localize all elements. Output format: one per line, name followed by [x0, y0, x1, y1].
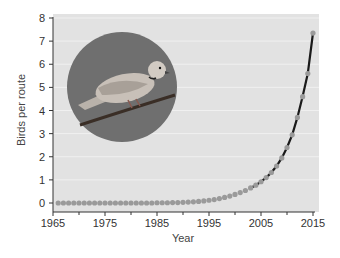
- data-point: [134, 200, 139, 205]
- x-tick-label: 1995: [197, 217, 221, 229]
- data-point: [149, 200, 154, 205]
- data-point: [274, 163, 279, 168]
- y-tick-label: 5: [39, 81, 45, 93]
- data-point: [196, 199, 201, 204]
- data-point: [139, 200, 144, 205]
- data-point: [258, 179, 263, 184]
- data-point: [128, 200, 133, 205]
- x-axis-title: Year: [172, 232, 195, 244]
- data-point: [123, 200, 128, 205]
- data-point: [170, 200, 175, 205]
- dove-photo: [67, 32, 177, 142]
- data-point: [113, 200, 118, 205]
- data-point: [253, 183, 258, 188]
- data-point: [238, 190, 243, 195]
- data-point: [232, 192, 237, 197]
- data-point: [108, 200, 113, 205]
- y-tick-label: 4: [39, 105, 45, 117]
- data-point: [248, 185, 253, 190]
- y-tick-label: 8: [39, 12, 45, 24]
- data-point: [212, 197, 217, 202]
- data-point: [175, 200, 180, 205]
- x-tick-label: 1965: [41, 217, 65, 229]
- y-tick-label: 6: [39, 58, 45, 70]
- data-point: [201, 198, 206, 203]
- data-point: [243, 188, 248, 193]
- data-point: [92, 200, 97, 205]
- dove-head-icon: [148, 61, 166, 79]
- data-point: [61, 200, 66, 205]
- x-tick-label: 2005: [249, 217, 273, 229]
- data-point: [217, 196, 222, 201]
- data-point: [102, 200, 107, 205]
- data-point: [310, 30, 315, 35]
- data-point: [71, 200, 76, 205]
- data-point: [165, 200, 170, 205]
- data-point: [180, 200, 185, 205]
- x-tick-label: 2015: [301, 217, 325, 229]
- data-point: [295, 115, 300, 120]
- data-point: [97, 200, 102, 205]
- data-point: [56, 200, 61, 205]
- data-point: [76, 200, 81, 205]
- data-point: [227, 193, 232, 198]
- y-axis-title: Birds per route: [15, 74, 27, 146]
- data-point: [222, 195, 227, 200]
- y-tick-label: 2: [39, 151, 45, 163]
- data-point: [154, 200, 159, 205]
- data-point: [290, 132, 295, 137]
- data-point: [66, 200, 71, 205]
- data-point: [186, 199, 191, 204]
- data-point: [87, 200, 92, 205]
- data-point: [300, 94, 305, 99]
- x-tick-label: 1985: [145, 217, 169, 229]
- data-point: [82, 200, 87, 205]
- data-point: [160, 200, 165, 205]
- y-tick-label: 3: [39, 128, 45, 140]
- data-point: [206, 198, 211, 203]
- dove-eye-icon: [159, 67, 161, 69]
- data-point: [305, 71, 310, 76]
- y-tick-label: 1: [39, 174, 45, 186]
- data-point: [269, 170, 274, 175]
- bird-population-chart: 012345678196519751985199520052015 Year B…: [0, 0, 340, 258]
- data-point: [279, 155, 284, 160]
- data-point: [191, 199, 196, 204]
- y-tick-label: 0: [39, 197, 45, 209]
- data-point: [118, 200, 123, 205]
- x-tick-label: 1975: [93, 217, 117, 229]
- data-point: [144, 200, 149, 205]
- data-point: [264, 175, 269, 180]
- y-tick-label: 7: [39, 35, 45, 47]
- data-point: [284, 145, 289, 150]
